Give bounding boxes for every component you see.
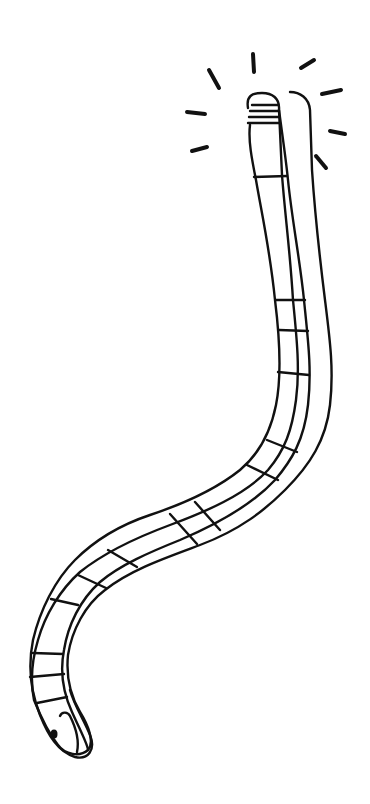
worm-body [32, 92, 332, 754]
glow-ray [253, 54, 254, 72]
segment-line [33, 653, 63, 654]
segment-line [279, 330, 308, 331]
glow-ray [301, 60, 314, 68]
worm-outline [30, 110, 309, 758]
glow-ray [187, 112, 205, 114]
segment-line [37, 697, 67, 703]
glow-ray [209, 70, 219, 88]
segment-line [254, 176, 287, 177]
glow-ray [316, 156, 326, 168]
glow-ray [192, 147, 207, 151]
segment-line [30, 674, 64, 677]
glow-ray [330, 131, 345, 134]
segment-line [247, 465, 278, 480]
eye-icon [51, 730, 58, 739]
segment-line [108, 550, 137, 567]
worm-illustration [0, 0, 370, 804]
segment-line [278, 372, 309, 375]
glow-ray [322, 90, 341, 94]
